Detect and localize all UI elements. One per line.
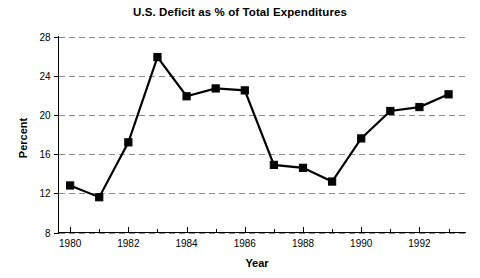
data-point-1981 — [96, 194, 103, 201]
y-axis-tick-labels: 81216202428 — [39, 32, 51, 239]
y-tick-label-20: 20 — [39, 110, 51, 121]
line-chart-plot: 81216202428 1980198219841986198819901992… — [0, 0, 480, 278]
x-tick-label-1984: 1984 — [175, 238, 198, 249]
y-tick-label-8: 8 — [45, 228, 51, 239]
x-axis-tick-labels: 1980198219841986198819901992 — [59, 238, 431, 249]
data-series-line — [70, 57, 448, 197]
x-axis-title: Year — [245, 257, 269, 269]
x-tick-label-1980: 1980 — [59, 238, 82, 249]
x-tick-label-1992: 1992 — [408, 238, 431, 249]
x-tick-label-1990: 1990 — [350, 238, 373, 249]
chart-figure: U.S. Deficit as % of Total Expenditures … — [0, 0, 480, 278]
y-axis-title: Percent — [17, 117, 29, 158]
x-axis-ticks-group — [71, 227, 450, 233]
x-tick-label-1986: 1986 — [234, 238, 257, 249]
data-point-1990 — [358, 135, 365, 142]
data-point-1980 — [67, 182, 74, 189]
y-tick-label-16: 16 — [39, 149, 51, 160]
x-tick-label-1982: 1982 — [117, 238, 140, 249]
data-point-1992 — [416, 103, 423, 110]
data-point-1982 — [125, 139, 132, 146]
data-point-1993 — [445, 91, 452, 98]
data-point-1984 — [183, 93, 190, 100]
y-tick-label-28: 28 — [39, 32, 51, 43]
y-tick-label-24: 24 — [39, 71, 51, 82]
data-point-1987 — [270, 161, 277, 168]
data-point-1983 — [154, 53, 161, 60]
data-point-1986 — [241, 87, 248, 94]
data-point-1985 — [212, 85, 219, 92]
data-point-1991 — [387, 107, 394, 114]
y-tick-label-12: 12 — [39, 188, 51, 199]
data-point-1989 — [329, 178, 336, 185]
x-tick-label-1988: 1988 — [292, 238, 315, 249]
data-point-1988 — [299, 164, 306, 171]
